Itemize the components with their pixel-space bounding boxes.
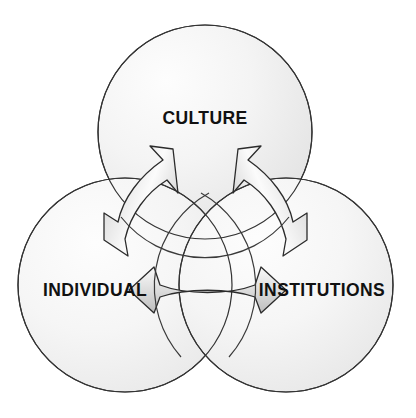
label-institutions: INSTITUTIONS — [259, 280, 385, 300]
venn-diagram: CULTURE INDIVIDUAL INSTITUTIONS — [0, 0, 416, 418]
circle-group — [18, 25, 393, 392]
label-culture: CULTURE — [162, 108, 247, 128]
diagram-canvas: CULTURE INDIVIDUAL INSTITUTIONS — [0, 0, 416, 418]
label-individual: INDIVIDUAL — [43, 280, 147, 300]
